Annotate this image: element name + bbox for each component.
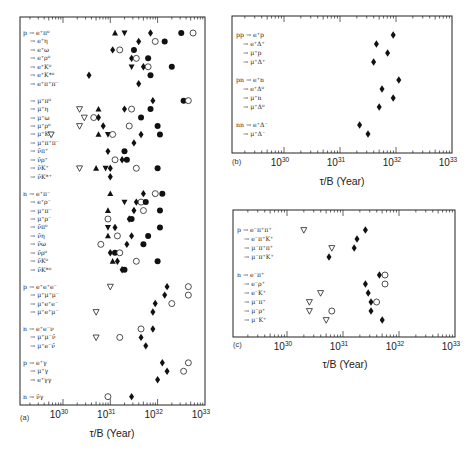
decay-mode-label: → μ⁺K⁰ bbox=[30, 130, 52, 138]
decay-mode-label: → μ⁻K⁺ bbox=[244, 316, 266, 324]
diamond-filled-marker-icon bbox=[355, 235, 360, 242]
circle-filled-marker-icon bbox=[157, 208, 163, 214]
decay-mode-label: → μ⁺γ bbox=[30, 367, 48, 375]
diamond-filled-marker-icon bbox=[108, 165, 113, 172]
circle-open-marker-icon bbox=[185, 360, 191, 366]
triangle-up-filled-marker-icon bbox=[110, 258, 116, 264]
diamond-filled-marker-icon bbox=[380, 316, 385, 323]
decay-mode-label: → e⁺Δ⁺ bbox=[243, 40, 265, 47]
diamond-filled-marker-icon bbox=[150, 308, 155, 315]
decay-mode-label: → μ⁺μ⁻ν̄ bbox=[30, 333, 56, 341]
circle-open-marker-icon bbox=[169, 301, 175, 307]
triangle-down-open-marker-icon bbox=[77, 107, 83, 113]
diamond-filled-marker-icon bbox=[377, 271, 382, 278]
circle-open-marker-icon bbox=[112, 157, 118, 163]
diamond-filled-marker-icon bbox=[87, 72, 92, 79]
decay-mode-label: → μ⁺η bbox=[30, 105, 48, 113]
x-tick-label: 1032 bbox=[144, 408, 163, 420]
decay-mode-label: → μ⁺e⁻ν̄ bbox=[30, 342, 55, 350]
triangle-down-open-marker-icon bbox=[77, 124, 83, 130]
circle-filled-marker-icon bbox=[140, 241, 146, 247]
decay-mode-label: → e⁺ρ⁰ bbox=[30, 54, 51, 62]
decay-mode-label: → μ⁻ρ⁺ bbox=[244, 307, 265, 315]
circle-open-marker-icon bbox=[185, 292, 191, 298]
decay-mode-label: → μ⁻π⁺π⁺ bbox=[244, 244, 273, 252]
diamond-filled-marker-icon bbox=[391, 94, 396, 101]
circle-open-marker-icon bbox=[138, 326, 144, 332]
circle-open-marker-icon bbox=[117, 47, 123, 53]
diamond-filled-marker-icon bbox=[110, 46, 115, 53]
decay-mode-label: p → e⁺e⁺e⁻ bbox=[23, 283, 57, 291]
diamond-filled-marker-icon bbox=[366, 289, 371, 296]
circle-filled-marker-icon bbox=[157, 224, 163, 230]
decay-mode-label: → e⁺K*⁰ bbox=[30, 71, 55, 78]
decay-mode-label: → ν̄η bbox=[30, 232, 45, 240]
circle-open-marker-icon bbox=[105, 216, 111, 222]
x-tick-label: 1033 bbox=[192, 408, 211, 420]
decay-mode-label: → e⁺Δ⁰ bbox=[243, 85, 265, 92]
diamond-filled-marker-icon bbox=[148, 29, 153, 36]
diamond-filled-marker-icon bbox=[150, 97, 155, 104]
circle-open-marker-icon bbox=[185, 284, 191, 290]
decay-mode-label: → e⁺γγ bbox=[30, 376, 52, 384]
diamond-filled-marker-icon bbox=[385, 49, 390, 56]
circle-open-marker-icon bbox=[152, 38, 158, 44]
diamond-filled-marker-icon bbox=[366, 130, 371, 137]
decay-mode-label: → ν̄ρ⁰ bbox=[30, 249, 48, 257]
panel-c-xlabel: τ/B (Year) bbox=[322, 358, 367, 370]
circle-open-marker-icon bbox=[91, 115, 97, 121]
triangle-down-open-marker-icon bbox=[306, 300, 312, 306]
triangle-down-open-marker-icon bbox=[323, 318, 329, 324]
decay-mode-label: pp → e⁺p bbox=[236, 31, 264, 39]
circle-open-marker-icon bbox=[152, 191, 158, 197]
triangle-up-filled-marker-icon bbox=[112, 30, 118, 36]
circle-open-marker-icon bbox=[98, 241, 104, 247]
diamond-filled-marker-icon bbox=[108, 173, 113, 180]
diamond-filled-marker-icon bbox=[369, 298, 374, 305]
circle-filled-marker-icon bbox=[157, 131, 163, 137]
triangle-down-open-marker-icon bbox=[93, 335, 99, 341]
circle-filled-marker-icon bbox=[162, 38, 168, 44]
decay-mode-label: → μ⁺ρ⁻ bbox=[30, 215, 51, 223]
decay-mode-label: → μ⁺e⁺e⁻ bbox=[30, 300, 58, 308]
diamond-filled-marker-icon bbox=[155, 376, 160, 383]
diamond-filled-marker-icon bbox=[96, 114, 101, 121]
decay-mode-label: → e⁺ω bbox=[30, 46, 49, 53]
decay-mode-label: → μ⁺Δ⁺ bbox=[243, 58, 265, 66]
decay-mode-label: → μ⁺p bbox=[243, 49, 261, 57]
circle-open-marker-icon bbox=[105, 394, 111, 400]
circle-open-marker-icon bbox=[117, 334, 123, 340]
circle-filled-marker-icon bbox=[155, 165, 161, 171]
decay-mode-label: → μ⁺π⁰ bbox=[30, 97, 52, 105]
circle-filled-marker-icon bbox=[121, 148, 127, 154]
diamond-filled-marker-icon bbox=[374, 40, 379, 47]
proton-decay-lifetime-figure: 1030103110321033p → e⁺π⁰→ e⁺η→ e⁺ω→ e⁺ρ⁰… bbox=[0, 0, 471, 455]
circle-filled-marker-icon bbox=[131, 47, 137, 53]
panel-a-xlabel: τ/B (Year) bbox=[89, 427, 134, 439]
circle-open-marker-icon bbox=[145, 64, 151, 70]
x-tick-label: 1033 bbox=[442, 340, 461, 352]
diamond-filled-marker-icon bbox=[143, 342, 148, 349]
diamond-filled-marker-icon bbox=[122, 105, 127, 112]
triangle-up-filled-marker-icon bbox=[105, 207, 111, 213]
circle-filled-marker-icon bbox=[145, 233, 151, 239]
diamond-filled-marker-icon bbox=[363, 226, 368, 233]
x-tick-label: 1030 bbox=[271, 156, 290, 168]
decay-mode-label: p → e⁺γ bbox=[23, 359, 47, 367]
diamond-filled-marker-icon bbox=[131, 139, 136, 146]
circle-open-marker-icon bbox=[329, 308, 335, 314]
decay-mode-label: → ν̄π⁺ bbox=[30, 147, 48, 154]
circle-open-marker-icon bbox=[126, 123, 132, 129]
triangle-up-filled-marker-icon bbox=[105, 233, 111, 239]
decay-mode-label: → ν̄K⁺ bbox=[30, 164, 49, 171]
diamond-filled-marker-icon bbox=[396, 76, 401, 83]
decay-mode-label: nn → e⁺Δ⁻ bbox=[236, 121, 268, 128]
decay-mode-label: n → e⁺π⁻ bbox=[23, 190, 50, 197]
decay-mode-label: → e⁻ρ⁺ bbox=[244, 280, 265, 288]
circle-filled-marker-icon bbox=[143, 199, 149, 205]
circle-filled-marker-icon bbox=[129, 216, 135, 222]
circle-filled-marker-icon bbox=[169, 64, 175, 70]
diamond-filled-marker-icon bbox=[162, 291, 167, 298]
circle-open-marker-icon bbox=[129, 106, 135, 112]
decay-mode-label: p → e⁻π⁺π⁺ bbox=[237, 226, 272, 234]
